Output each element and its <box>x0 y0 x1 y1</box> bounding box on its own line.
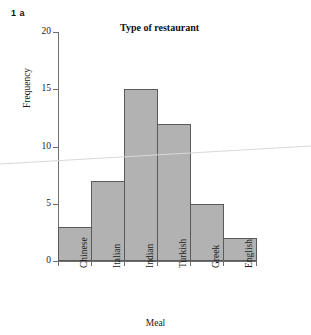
y-tick-label: 0 <box>0 255 51 265</box>
x-tick-mark <box>157 261 158 266</box>
y-tick-mark <box>53 89 58 90</box>
bar <box>124 89 158 261</box>
x-category-label: Chinese <box>79 237 89 268</box>
y-tick-mark <box>53 32 58 33</box>
x-category-label: English <box>244 239 254 268</box>
x-category-label: Turkish <box>178 239 188 268</box>
x-axis-title: Meal <box>0 318 311 328</box>
y-axis-title: Frequency <box>22 68 32 108</box>
y-tick-label: 10 <box>0 141 51 151</box>
question-label: 1 a <box>11 8 25 18</box>
y-tick-mark <box>53 204 58 205</box>
y-tick-label: 20 <box>0 26 51 36</box>
x-tick-mark <box>58 261 59 266</box>
x-tick-mark <box>256 261 257 266</box>
x-category-label: Indian <box>145 244 155 268</box>
figure: 1 a Type of restaurant 05101520 ChineseI… <box>0 0 311 335</box>
chart-title: Type of restaurant <box>120 22 199 33</box>
y-tick-label: 5 <box>0 198 51 208</box>
x-category-label: Greek <box>211 245 221 268</box>
x-tick-mark <box>124 261 125 266</box>
x-category-label: Italian <box>112 244 122 268</box>
x-tick-mark <box>190 261 191 266</box>
y-tick-mark <box>53 147 58 148</box>
x-tick-mark <box>223 261 224 266</box>
x-tick-mark <box>91 261 92 266</box>
